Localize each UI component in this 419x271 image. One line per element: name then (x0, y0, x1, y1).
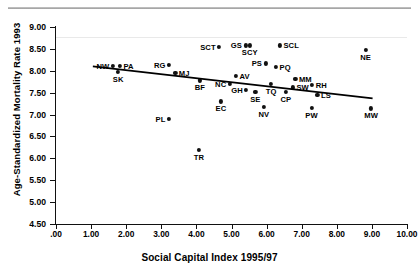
y-tick-mark (50, 180, 55, 181)
x-tick-label: 10.00 (387, 229, 419, 239)
x-tick-label: 1.00 (71, 229, 111, 239)
x-axis-title: Social Capital Index 1995/97 (0, 252, 419, 263)
trend-line (56, 27, 407, 224)
top-divider-rule (8, 7, 411, 9)
x-tick-label: 4.00 (176, 229, 216, 239)
y-tick-mark (50, 115, 55, 116)
x-tick-label: 7.00 (282, 229, 322, 239)
y-tick-label: 6.50 (0, 131, 46, 141)
y-tick-label: 7.00 (0, 110, 46, 120)
x-tick-label: 5.00 (212, 229, 252, 239)
y-tick-label: 6.00 (0, 153, 46, 163)
y-tick-label: 9.00 (0, 22, 46, 32)
y-tick-label: 5.50 (0, 175, 46, 185)
x-tick-label: .00 (36, 229, 76, 239)
x-tick-label: 2.00 (106, 229, 146, 239)
y-tick-mark (50, 93, 55, 94)
y-tick-mark (50, 136, 55, 137)
y-tick-mark (50, 202, 55, 203)
y-tick-label: 7.50 (0, 88, 46, 98)
y-tick-label: 4.50 (0, 219, 46, 229)
y-tick-label: 8.00 (0, 66, 46, 76)
trend-line-path (93, 66, 373, 98)
y-tick-mark (50, 71, 55, 72)
x-tick-label: 6.00 (247, 229, 287, 239)
y-tick-mark (50, 224, 55, 225)
y-tick-label: 5.00 (0, 197, 46, 207)
scatter-chart: 4.505.005.506.006.507.007.508.008.509.00… (0, 0, 419, 271)
y-tick-mark (50, 49, 55, 50)
y-tick-mark (50, 158, 55, 159)
x-tick-label: 8.00 (317, 229, 357, 239)
y-axis-title: Age-Standardized Mortality Rate 1993 (11, 10, 22, 210)
x-tick-label: 3.00 (141, 229, 181, 239)
x-tick-label: 9.00 (352, 229, 392, 239)
y-tick-label: 8.50 (0, 44, 46, 54)
y-tick-mark (50, 27, 55, 28)
